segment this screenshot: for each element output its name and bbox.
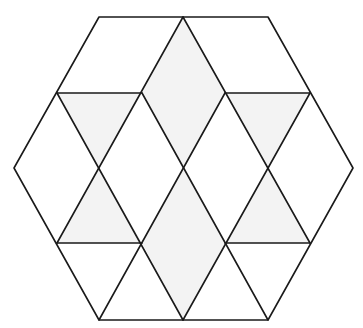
- hexagon-tiling-diagram: [0, 0, 363, 328]
